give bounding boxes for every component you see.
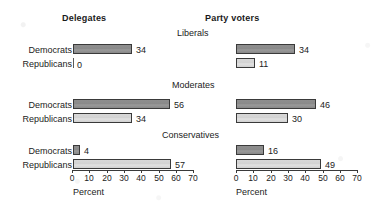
right-tick-label-40: 40 xyxy=(295,173,315,183)
left-liberals-republicans-bar xyxy=(73,58,74,68)
left-moderates-republicans-bar xyxy=(73,113,132,123)
left-conservatives-republicans-label: Republicans xyxy=(6,160,72,170)
left-liberals-democrats-value: 34 xyxy=(136,45,146,55)
right-axis-title: Percent xyxy=(236,187,267,197)
right-moderates-democrats-bar xyxy=(236,99,316,109)
grouped-bar-chart-figure: Delegates Democrats 34 Republicans 0 Dem… xyxy=(0,0,387,206)
left-moderates-democrats-value: 56 xyxy=(174,100,184,110)
left-conservatives-democrats-label: Democrats xyxy=(6,146,72,156)
left-conservatives-democrats-value: 4 xyxy=(84,146,89,156)
right-conservatives-republicans-bar xyxy=(236,159,321,169)
panel-title-delegates: Delegates xyxy=(62,13,106,23)
left-moderates-republicans-value: 34 xyxy=(136,114,146,124)
left-conservatives-democrats-bar xyxy=(73,145,80,155)
right-tick-label-70: 70 xyxy=(347,173,367,183)
right-liberals-republicans-value: 11 xyxy=(259,59,268,69)
panel-delegates: Delegates Democrats 34 Republicans 0 Dem… xyxy=(0,0,200,206)
right-conservatives-democrats-bar xyxy=(236,145,264,155)
right-moderates-republicans-value: 30 xyxy=(292,114,302,124)
panel-party-voters: Party voters 34 11 46 30 16 49 0 10 20 3… xyxy=(200,0,387,206)
group-label-moderates: Moderates xyxy=(172,80,215,90)
left-moderates-republicans-label: Republicans xyxy=(6,114,72,124)
right-conservatives-republicans-value: 49 xyxy=(325,160,335,170)
left-tick-label-40: 40 xyxy=(131,173,151,183)
group-label-liberals: Liberals xyxy=(177,28,209,38)
right-liberals-republicans-bar xyxy=(236,58,255,68)
left-liberals-republicans-value: 0 xyxy=(77,60,82,70)
right-liberals-democrats-value: 34 xyxy=(299,45,309,55)
right-moderates-democrats-value: 46 xyxy=(320,100,330,110)
right-moderates-republicans-bar xyxy=(236,113,288,123)
left-conservatives-republicans-value: 57 xyxy=(175,160,185,170)
right-conservatives-democrats-value: 16 xyxy=(268,146,278,156)
left-liberals-republicans-label: Republicans xyxy=(6,59,72,69)
group-label-conservatives: Conservatives xyxy=(162,130,219,140)
panel-title-party-voters: Party voters xyxy=(205,13,259,23)
left-liberals-democrats-bar xyxy=(73,44,132,54)
left-conservatives-republicans-bar xyxy=(73,159,171,169)
left-liberals-democrats-label: Democrats xyxy=(6,45,72,55)
left-axis-title: Percent xyxy=(73,187,104,197)
right-tick-label-10: 10 xyxy=(243,173,263,183)
right-liberals-democrats-bar xyxy=(236,44,295,54)
left-moderates-democrats-bar xyxy=(73,99,170,109)
left-tick-label-10: 10 xyxy=(79,173,99,183)
left-moderates-democrats-label: Democrats xyxy=(6,100,72,110)
